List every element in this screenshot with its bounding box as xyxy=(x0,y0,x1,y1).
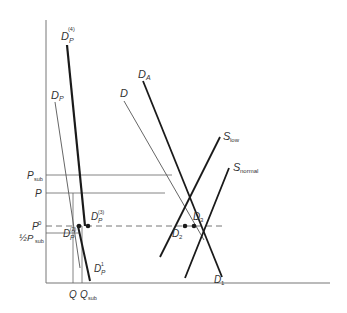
svg-text:sub: sub xyxy=(35,238,44,244)
label-da: D A xyxy=(138,68,151,81)
svg-text:D: D xyxy=(138,68,146,80)
label-s-low: S low xyxy=(223,130,240,143)
label-d: D xyxy=(120,87,128,99)
svg-text:P: P xyxy=(101,269,106,276)
label-dp3: D P (3) xyxy=(91,209,104,224)
svg-text:sub: sub xyxy=(34,176,43,182)
svg-text:sub: sub xyxy=(88,295,97,301)
svg-text:0: 0 xyxy=(38,220,42,226)
label-d1: D 1 xyxy=(214,274,225,286)
label-p: P xyxy=(35,188,42,199)
svg-text:P: P xyxy=(59,95,64,102)
dp3-point xyxy=(86,224,91,229)
label-p-sub: P sub xyxy=(27,170,43,182)
label-q: Q xyxy=(69,289,77,300)
svg-text:Q: Q xyxy=(69,289,77,300)
svg-text:P: P xyxy=(27,170,34,181)
d-curve xyxy=(124,101,204,240)
svg-text:D: D xyxy=(120,87,128,99)
dp2-point xyxy=(77,224,82,229)
svg-text:P: P xyxy=(70,234,75,241)
svg-text:(2): (2) xyxy=(70,226,76,232)
svg-text:P: P xyxy=(69,37,74,44)
label-half-p-sub: ½P sub xyxy=(19,232,44,244)
label-p0: P 0 xyxy=(32,220,42,232)
s-normal-curve xyxy=(185,168,229,278)
svg-text:A: A xyxy=(145,74,151,81)
svg-text:normal: normal xyxy=(240,168,258,174)
svg-text:(4): (4) xyxy=(68,26,75,32)
label-dp4: D P (4) xyxy=(61,26,75,44)
svg-text:½P: ½P xyxy=(19,232,34,243)
d3-point xyxy=(192,224,197,229)
svg-text:1: 1 xyxy=(101,261,104,267)
svg-text:low: low xyxy=(230,137,240,143)
svg-text:3: 3 xyxy=(200,217,204,223)
s-low-curve xyxy=(160,137,220,257)
label-dp1: D P 1 xyxy=(94,261,106,276)
svg-text:P: P xyxy=(35,188,42,199)
supply-demand-diagram: D P (4) D P D A D S low S normal D 3 D 2… xyxy=(0,0,347,313)
label-d2: D 2 xyxy=(172,228,183,240)
label-d3: D 3 xyxy=(193,211,204,223)
dp1-curve xyxy=(78,226,90,281)
svg-text:P: P xyxy=(98,217,103,224)
label-dp: D P xyxy=(51,89,64,102)
label-q-sub: Q sub xyxy=(80,289,97,301)
label-s-normal: S normal xyxy=(233,161,258,174)
svg-text:2: 2 xyxy=(179,234,183,240)
da-curve xyxy=(143,81,222,277)
d2-point xyxy=(183,224,188,229)
svg-text:(3): (3) xyxy=(98,209,104,215)
svg-text:Q: Q xyxy=(80,289,88,300)
svg-text:D: D xyxy=(51,89,59,101)
